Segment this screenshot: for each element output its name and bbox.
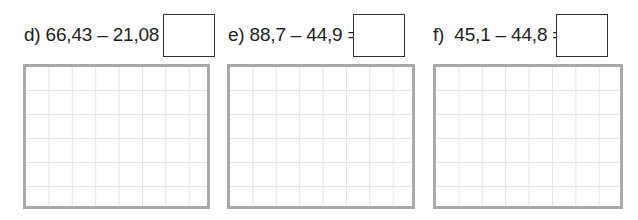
- problem-e-expression: e) 88,7 – 44,9 =: [228, 22, 358, 48]
- problem-d-answer-box[interactable]: [163, 14, 215, 57]
- problem-f-answer-box[interactable]: [556, 14, 608, 57]
- problem-f-expression: f) 45,1 – 44,8 =: [433, 22, 563, 48]
- problem-f-work-grid[interactable]: [433, 64, 623, 209]
- problem-e-work-grid[interactable]: [227, 64, 415, 209]
- problem-e-answer-box[interactable]: [353, 14, 405, 57]
- problem-d-work-grid[interactable]: [23, 64, 210, 209]
- problem-d-expression: d) 66,43 – 21,08 =: [24, 22, 175, 48]
